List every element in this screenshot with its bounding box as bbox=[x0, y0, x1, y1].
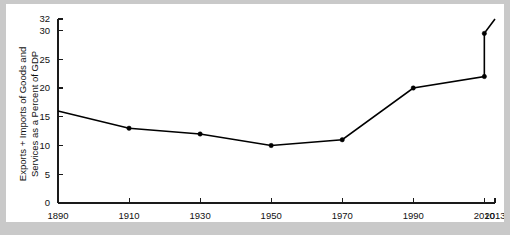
data-point-1950-10 bbox=[269, 143, 273, 147]
x-tick-labels: 18901910193019501970199020102013 bbox=[47, 210, 504, 221]
y-axis-label-line-1: Exports + Imports of Goods and bbox=[17, 47, 28, 181]
y-tick-label-10: 10 bbox=[39, 140, 50, 151]
y-tick-label-30: 30 bbox=[39, 25, 50, 36]
series-line-trade-share bbox=[58, 19, 495, 146]
figure-card: Exports + Imports of Goods and Services … bbox=[6, 4, 504, 222]
x-tick-label-1910: 1910 bbox=[118, 210, 139, 221]
x-tick-label-1950: 1950 bbox=[261, 210, 282, 221]
line-chart: Exports + Imports of Goods and Services … bbox=[6, 4, 504, 222]
data-point-1930-12 bbox=[198, 132, 202, 136]
data-point-2010-22 bbox=[482, 74, 486, 78]
y-tick-label-32: 32 bbox=[39, 13, 50, 24]
y-tick-label-15: 15 bbox=[39, 111, 50, 122]
y-tick-label-20: 20 bbox=[39, 82, 50, 93]
data-point-1910-13 bbox=[127, 126, 131, 130]
y-tick-label-25: 25 bbox=[39, 54, 50, 65]
y-tick-label-5: 5 bbox=[45, 169, 50, 180]
x-tick-label-1930: 1930 bbox=[190, 210, 211, 221]
data-point-2010-29.5 bbox=[482, 31, 486, 35]
x-tick-label-2013: 2013 bbox=[484, 210, 504, 221]
y-axis-label-line-2: Services as a Percent of GDP bbox=[29, 51, 40, 177]
x-tick-label-1890: 1890 bbox=[47, 210, 68, 221]
x-tick-marks bbox=[58, 198, 495, 203]
x-tick-label-1990: 1990 bbox=[403, 210, 424, 221]
y-tick-labels: 05101520253032 bbox=[39, 13, 50, 208]
series-markers bbox=[127, 31, 487, 148]
y-axis-label: Exports + Imports of Goods and Services … bbox=[17, 47, 40, 181]
x-tick-label-1970: 1970 bbox=[332, 210, 353, 221]
data-point-1990-20 bbox=[411, 86, 415, 90]
data-point-1970-11 bbox=[340, 138, 344, 142]
y-tick-label-0: 0 bbox=[45, 197, 50, 208]
